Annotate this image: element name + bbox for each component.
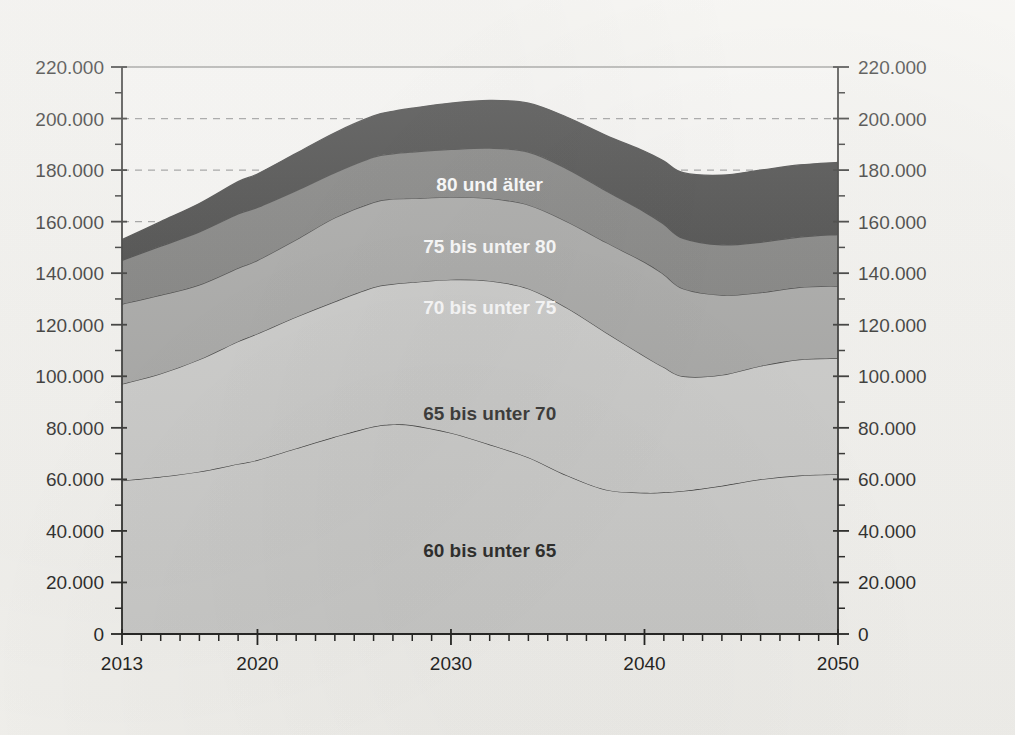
y-tick-label-left: 140.000: [35, 263, 104, 284]
y-axis-labels-left: 020.00040.00060.00080.000100.000120.0001…: [35, 57, 104, 645]
y-tick-label-left: 220.000: [35, 57, 104, 78]
x-tick-label: 2030: [430, 653, 472, 674]
y-tick-label-left: 80.000: [46, 418, 104, 439]
y-tick-label-right: 160.000: [858, 212, 927, 233]
y-tick-label-right: 40.000: [858, 521, 916, 542]
y-tick-label-right: 200.000: [858, 109, 927, 130]
series-label: 65 bis unter 70: [423, 403, 556, 424]
y-tick-label-right: 60.000: [858, 469, 916, 490]
y-tick-label-left: 160.000: [35, 212, 104, 233]
y-tick-label-right: 120.000: [858, 315, 927, 336]
y-tick-label-right: 100.000: [858, 366, 927, 387]
y-tick-label-right: 180.000: [858, 160, 927, 181]
y-tick-label-left: 0: [93, 624, 104, 645]
y-tick-label-left: 60.000: [46, 469, 104, 490]
x-tick-label: 2050: [817, 653, 859, 674]
y-tick-label-right: 80.000: [858, 418, 916, 439]
y-tick-label-left: 200.000: [35, 109, 104, 130]
stacked-area-chart: 020.00040.00060.00080.000100.000120.0001…: [0, 0, 1015, 735]
y-tick-label-right: 20.000: [858, 572, 916, 593]
series-label: 75 bis unter 80: [423, 236, 556, 257]
series-label: 70 bis unter 75: [423, 297, 556, 318]
y-tick-label-left: 20.000: [46, 572, 104, 593]
y-tick-label-right: 0: [858, 624, 869, 645]
chart-page: 020.00040.00060.00080.000100.000120.0001…: [0, 0, 1015, 735]
x-axis-labels: 20132020203020402050: [101, 653, 859, 674]
x-tick-label: 2020: [236, 653, 278, 674]
y-tick-label-left: 100.000: [35, 366, 104, 387]
y-tick-label-left: 40.000: [46, 521, 104, 542]
series-label: 60 bis unter 65: [423, 540, 556, 561]
y-tick-label-right: 220.000: [858, 57, 927, 78]
x-tick-label: 2040: [623, 653, 665, 674]
y-tick-label-left: 120.000: [35, 315, 104, 336]
y-tick-label-right: 140.000: [858, 263, 927, 284]
y-tick-label-left: 180.000: [35, 160, 104, 181]
series-label: 80 und älter: [436, 174, 543, 195]
x-tick-label: 2013: [101, 653, 143, 674]
y-axis-labels-right: 020.00040.00060.00080.000100.000120.0001…: [858, 57, 927, 645]
